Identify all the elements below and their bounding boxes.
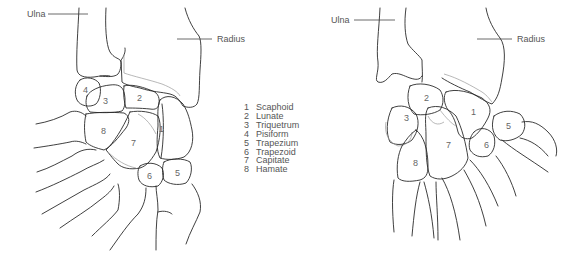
left-num-4: 4 [83,85,88,95]
right-num-1: 1 [471,107,476,117]
left-wrist-diagram: Ulna Radius 1 2 3 4 5 6 7 8 [27,8,246,250]
right-radius-label: Radius [517,34,546,44]
left-num-3: 3 [103,96,108,106]
right-num-2: 2 [424,93,429,103]
right-trapezoid [469,129,495,157]
left-ulna-bone [77,8,121,77]
legend-name: Hamate [256,165,288,174]
right-num-6: 6 [484,140,489,150]
right-wrist-diagram: Ulna Radius 1 2 3 5 6 7 8 [331,8,557,240]
left-hamate [85,112,129,150]
right-ulna-bone [376,8,422,82]
left-radius-label: Radius [217,34,246,44]
right-num-7: 7 [446,140,451,150]
left-num-1: 1 [159,124,164,134]
right-metacarpals [393,140,549,240]
legend-number: 8 [244,165,256,174]
legend-item: 8Hamate [244,165,299,174]
left-num-7: 7 [131,138,136,148]
right-hamate [397,130,428,181]
left-num-6: 6 [147,171,152,181]
left-metacarpals [34,111,201,250]
left-num-5: 5 [175,168,180,178]
right-triquetrum [387,106,418,144]
left-num-8: 8 [101,126,106,136]
right-num-8: 8 [413,158,418,168]
right-ulna-label: Ulna [331,15,350,25]
left-ulna-label: Ulna [27,9,46,19]
carpal-bones-legend: 1Scaphoid 2Lunate 3Triquetrum 4Pisiform … [244,103,299,174]
right-num-5: 5 [506,121,511,131]
left-radius-bone [121,8,201,107]
right-scaphoid [444,90,490,138]
right-num-3: 3 [404,113,409,123]
left-num-2: 2 [137,93,142,103]
right-radius-bone [442,8,504,104]
